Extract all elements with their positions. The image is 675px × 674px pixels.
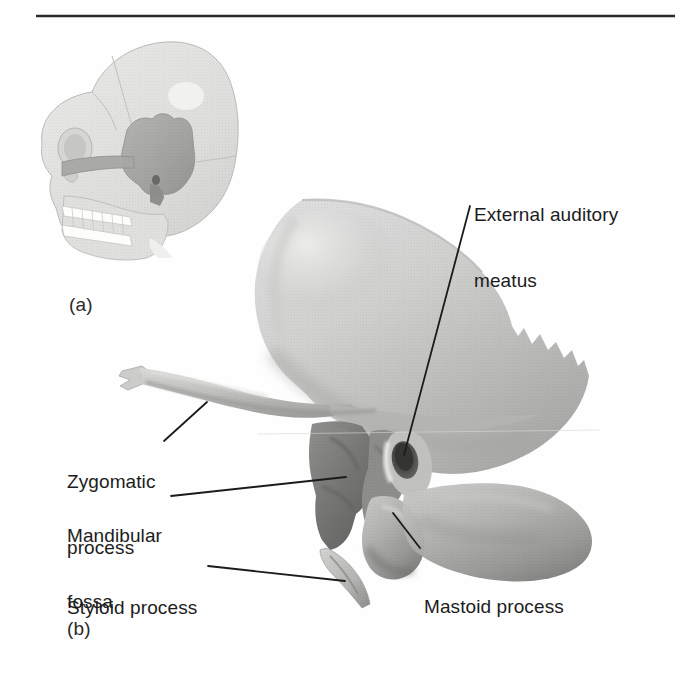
leader-styloid-process <box>208 566 345 581</box>
inset-skull-panel-a <box>41 42 238 260</box>
label-mastoid-process: Mastoid process <box>424 552 564 662</box>
label-external-auditory-meatus-line2: meatus <box>474 270 618 292</box>
label-mastoid-process-line1: Mastoid process <box>424 596 564 618</box>
label-styloid-process-line1: Styloid process <box>67 597 197 619</box>
label-external-auditory-meatus-line1: External auditory <box>474 204 618 226</box>
label-external-auditory-meatus: External auditory meatus <box>474 160 618 336</box>
label-mandibular-fossa-line1: Mandibular <box>67 525 162 547</box>
panel-letter-b: (b) <box>67 618 91 640</box>
figure-container: External auditory meatus Zygomatic proce… <box>0 0 675 674</box>
panel-letter-a: (a) <box>69 294 93 316</box>
leader-zygomatic-process <box>164 402 207 441</box>
label-styloid-process: Styloid process <box>67 553 197 663</box>
styloid-process-shape <box>320 548 370 608</box>
inset-skull-parietal-highlight <box>168 82 204 110</box>
